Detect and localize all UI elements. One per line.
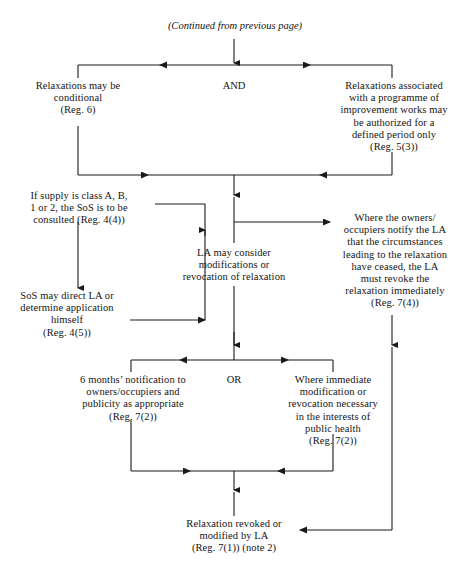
continued-from-previous-page-note: (Continued from previous page) xyxy=(120,20,350,33)
node-immediate-modification: Where immediate modification or revocati… xyxy=(266,374,400,447)
operator-and: AND xyxy=(196,80,272,92)
node-la-may-consider: LA may consider modifications or revocat… xyxy=(158,247,310,284)
flowchart-page: (Continued from previous page) xyxy=(0,0,471,573)
node-six-months-notification: 6 months’ notification to owners/occupie… xyxy=(58,374,208,423)
node-owners-occupiers-notify: Where the owners/ occupiers notify the L… xyxy=(322,212,468,310)
node-sos-direct-la: SoS may direct LA or determine applicati… xyxy=(4,290,130,339)
node-relaxations-programme: Relaxations associated with a programme … xyxy=(322,80,466,153)
node-relaxation-revoked: Relaxation revoked or modified by LA (Re… xyxy=(152,518,316,555)
node-relaxations-conditional: Relaxations may be conditional (Reg. 6) xyxy=(8,80,148,117)
operator-or: OR xyxy=(208,374,260,386)
node-supply-class-sos-consulted: If supply is class A, B, 1 or 2, the SoS… xyxy=(4,190,154,227)
